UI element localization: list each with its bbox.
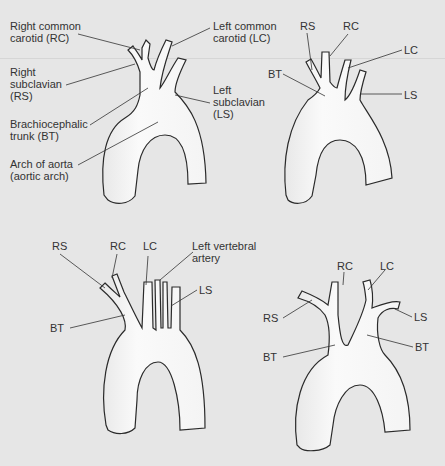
label-rs: RS (263, 312, 278, 324)
label-rc: RC (337, 260, 353, 272)
label-bt: BT (268, 68, 282, 80)
panel-top-right-aorta (285, 52, 392, 203)
label-rc: RC (110, 240, 126, 252)
label-bt-right: BT (263, 351, 277, 363)
label-lc: LC (143, 240, 157, 252)
label-ls: LS (404, 89, 417, 101)
label-rc: RC (343, 20, 359, 32)
aortic-arch-illustrations (0, 0, 445, 466)
panel-top-left-aorta (103, 40, 206, 203)
label-ls: LS (414, 311, 427, 323)
label-ls: LS (199, 284, 212, 296)
panel-bottom-right-aorta (296, 280, 410, 451)
label-lc: LC (404, 44, 418, 56)
label-brachiocephalic-trunk: Brachiocephalic trunk (BT) (10, 118, 88, 142)
label-rs: RS (52, 240, 67, 252)
label-left-subclavian: Left subclavian (LS) (213, 84, 265, 120)
label-rs: RS (300, 20, 315, 32)
label-lc: LC (380, 260, 394, 272)
label-right-subclavian: Right subclavian (RS) (10, 66, 62, 102)
label-arch-of-aorta: Arch of aorta (aortic arch) (10, 158, 73, 182)
label-right-common-carotid: Right common carotid (RC) (10, 20, 81, 44)
label-bt-left: BT (415, 341, 429, 353)
label-left-vertebral-artery: Left vertebral artery (192, 240, 256, 264)
label-bt: BT (50, 322, 64, 334)
panel-bottom-left-aorta (100, 274, 205, 434)
label-left-common-carotid: Left common carotid (LC) (213, 20, 277, 44)
